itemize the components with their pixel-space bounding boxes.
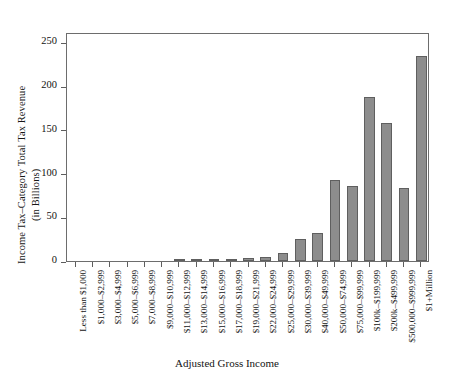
x-tick-label: $7,000–$8,999 [147,270,157,324]
x-tick-label: $11,000–$12,999 [182,270,192,333]
x-tick-label: $13,000–$14,999 [199,270,209,334]
x-axis-title: Adjusted Gross Income [0,357,454,369]
x-tick-label: $50,000–$74,999 [338,270,348,334]
chart-root: Income Tax–Category Total Tax Revenue (i… [0,0,454,377]
x-tick-label: $200k–$499,999 [389,270,399,331]
x-tick-label: $3,000–$4,999 [113,270,123,324]
x-tick-mark [161,262,162,267]
x-tick-mark [109,262,110,267]
x-tick-label: $22,000–$24,999 [268,270,278,334]
x-tick-mark [144,262,145,267]
x-tick-mark [317,262,318,267]
x-tick-mark [178,262,179,267]
x-tick-label: $40,000–$49,999 [320,270,330,334]
x-tick-label: $500,000–$999,999 [407,270,417,343]
x-tick-mark [351,262,352,267]
x-tick-mark [420,262,421,267]
x-tick-label: $5,000–$6,999 [130,270,140,324]
x-tick-label: $75,000–$99,999 [355,270,365,334]
x-tick-label: $19,000–$21,999 [251,270,261,334]
x-tick-mark [230,262,231,267]
x-axis-ticks: Less than $1,000$1,000–$2,999$3,000–$4,9… [0,0,454,377]
x-tick-mark [92,262,93,267]
x-tick-label: $30,000–$39,999 [303,270,313,334]
x-tick-label: $1,000–$2,999 [96,270,106,324]
x-tick-mark [334,262,335,267]
x-tick-mark [196,262,197,267]
x-tick-label: Less than $1,000 [78,270,88,332]
x-tick-mark [213,262,214,267]
x-tick-mark [386,262,387,267]
x-tick-mark [369,262,370,267]
x-tick-label: $15,000–$16,999 [217,270,227,334]
x-tick-label: $9,000–$10,999 [165,270,175,329]
x-tick-mark [299,262,300,267]
x-tick-mark [127,262,128,267]
x-tick-mark [265,262,266,267]
x-tick-mark [248,262,249,267]
x-tick-mark [75,262,76,267]
x-tick-mark [282,262,283,267]
x-tick-label: $17,000–$18,999 [234,270,244,334]
x-tick-label: $100k–$199,999 [372,270,382,331]
x-tick-label: $25,000–$29,999 [286,270,296,334]
x-tick-label: $1+Million [424,270,434,311]
x-tick-mark [403,262,404,267]
